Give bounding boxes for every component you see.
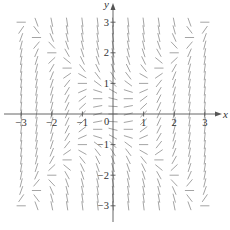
slope-segment — [21, 133, 22, 141]
slope-segment — [35, 49, 38, 57]
slope-segment — [157, 41, 160, 49]
slope-segment — [187, 195, 192, 202]
slope-segment — [158, 26, 160, 34]
slope-segment — [204, 64, 205, 72]
slope-segment — [127, 171, 129, 179]
slope-segment — [81, 57, 85, 65]
slope-segment — [36, 95, 37, 103]
slope-segment — [188, 202, 191, 210]
slope-segment — [173, 87, 175, 95]
slope-segment — [204, 171, 206, 179]
slope-segment — [143, 18, 144, 26]
slope-segment — [35, 18, 38, 26]
slope-segment — [142, 57, 146, 65]
x-tick-label: −3 — [16, 117, 27, 128]
slope-segment — [66, 194, 68, 202]
y-axis-arrowhead — [111, 3, 116, 10]
slope-segment — [65, 172, 69, 179]
slope-segment — [127, 179, 129, 187]
slope-segment — [81, 164, 85, 172]
slope-segment — [158, 186, 160, 194]
slope-segment — [21, 163, 22, 171]
slope-segment — [141, 157, 146, 164]
slope-segment — [20, 179, 22, 187]
slope-segment — [173, 202, 175, 210]
slope-segment — [50, 34, 53, 42]
slope-segment — [66, 186, 68, 194]
slope-segment — [94, 81, 101, 86]
slope-segment — [21, 148, 22, 156]
slope-segment — [21, 95, 22, 103]
slope-segment — [128, 18, 129, 26]
slope-segment — [19, 195, 24, 202]
slope-segment — [34, 195, 39, 202]
slope-segment — [51, 95, 53, 103]
slope-segment — [171, 180, 177, 186]
slope-segment — [142, 171, 145, 179]
slope-segment — [126, 149, 131, 156]
slope-segment — [203, 187, 206, 195]
slope-segment — [143, 186, 145, 194]
slope-segment — [124, 121, 132, 123]
slope-segment — [187, 42, 192, 48]
slope-segment — [79, 74, 86, 78]
slope-segment — [36, 72, 38, 80]
slope-segment — [64, 150, 71, 155]
slope-segment — [173, 95, 175, 103]
slope-segment — [156, 58, 163, 63]
slope-segment — [50, 79, 53, 87]
slope-segment — [157, 133, 161, 140]
slope-segment — [21, 72, 22, 80]
slope-segment — [97, 26, 98, 34]
slope-segment — [172, 187, 175, 195]
slope-segment — [96, 156, 100, 164]
slope-segment — [81, 179, 83, 187]
slope-segment — [34, 27, 39, 34]
slope-segment — [126, 64, 130, 72]
slope-segment — [204, 95, 205, 103]
slope-segment — [35, 202, 38, 210]
slope-segment — [157, 103, 161, 111]
slope-segment — [143, 194, 144, 202]
slope-segment — [188, 18, 191, 26]
slope-segment — [156, 141, 161, 148]
slope-segment — [34, 42, 39, 48]
slope-segment — [172, 64, 176, 71]
slope-segment — [171, 165, 177, 171]
slope-segment — [173, 133, 175, 141]
slope-segment — [156, 80, 161, 87]
slope-segment — [140, 150, 147, 154]
slope-segment — [171, 42, 177, 48]
slope-segment — [66, 179, 69, 187]
slope-segment — [36, 79, 38, 87]
slope-segment — [155, 150, 162, 155]
x-tick-label: 2 — [172, 117, 177, 128]
slope-segment — [127, 164, 130, 172]
slope-segment — [157, 49, 161, 56]
origin-label: 0 — [104, 116, 109, 127]
slope-segment — [36, 87, 37, 95]
slope-segment — [20, 187, 23, 195]
slope-segment — [203, 34, 206, 42]
slope-segment — [157, 95, 161, 103]
slope-segment — [64, 58, 71, 63]
x-axis-arrowhead — [215, 112, 222, 117]
slope-segment — [173, 26, 175, 34]
slope-segment — [124, 106, 132, 108]
slope-segment — [158, 202, 159, 210]
slope-segment — [79, 103, 85, 109]
x-tick-label: −2 — [46, 117, 57, 128]
slope-segment — [204, 156, 205, 164]
slope-segment — [50, 141, 53, 149]
slope-segment — [21, 87, 22, 95]
slope-segment — [49, 58, 55, 64]
y-tick-label: 1 — [104, 78, 109, 89]
slope-segment — [82, 186, 84, 194]
slope-segment — [79, 135, 87, 138]
slope-segment — [202, 195, 207, 202]
slope-segment — [34, 180, 39, 186]
slope-segment — [204, 179, 206, 187]
slope-segment — [143, 26, 144, 34]
slope-segment — [35, 171, 38, 179]
slope-segment — [97, 186, 98, 194]
